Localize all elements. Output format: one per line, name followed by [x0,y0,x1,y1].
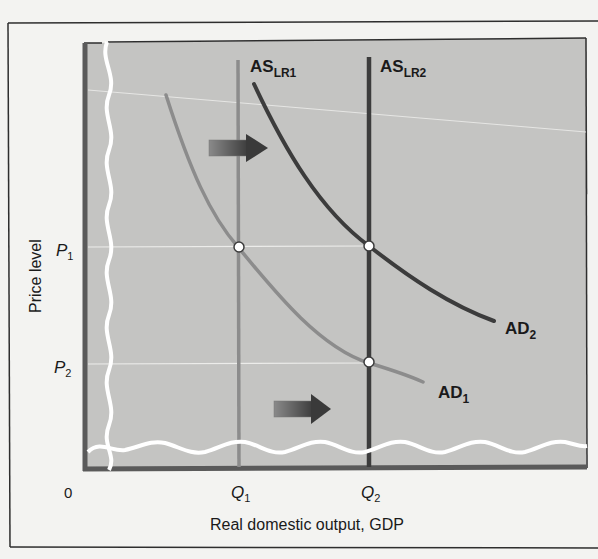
origin-label: 0 [64,484,72,501]
q1-label: Q1 [231,483,250,504]
outer-frame-left [8,23,10,547]
outer-frame-top [8,21,598,23]
x-axis [83,467,587,469]
q2-label: Q2 [361,483,380,504]
plot-area [84,38,588,471]
equilibrium-point-p2-q2 [364,357,374,367]
outer-frame-bottom [10,547,598,548]
plot-frame-right [586,38,587,468]
x-axis-title: Real domestic output, GDP [210,516,404,533]
y-axis-title: Price level [27,239,44,313]
equilibrium-point-p1-q2 [364,241,374,251]
ad-as-diagram: ASLR1 ASLR2 AD2 AD1 P1 P2 0 Q1 Q2 Real d… [0,0,598,559]
p1-label: P1 [56,241,73,262]
equilibrium-point-p1-q1 [234,242,244,252]
p2-label: P2 [54,358,71,379]
as-lr1-curve [238,60,239,467]
